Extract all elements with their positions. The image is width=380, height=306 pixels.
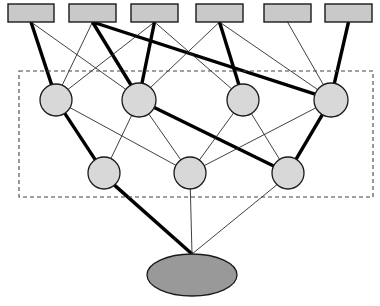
hidden-node-c4[interactable] [314,83,348,117]
connection-edge-d1-o1 [114,185,192,254]
input-node-r6[interactable] [325,4,372,22]
hidden-node-c1[interactable] [40,84,72,116]
hidden-node-d2[interactable] [174,157,206,189]
connection-edge-c2-d3 [154,107,273,165]
connection-edge-r6-c4 [334,22,348,83]
input-node-r4[interactable] [196,4,243,22]
connection-edge-c1-d1 [65,113,95,159]
connection-edge-d3-o1 [192,185,277,254]
connection-edge-c2-d1 [111,115,132,158]
hidden-node-d3[interactable] [272,157,304,189]
hidden-node-c2[interactable] [122,83,156,117]
connection-edge-c3-d3 [251,114,279,160]
connection-edge-r4-c3 [220,22,239,85]
connection-edge-r3-c3 [155,22,232,89]
hidden-node-d1[interactable] [88,157,120,189]
input-node-r3[interactable] [131,4,178,22]
network-diagram-svg [0,0,380,306]
connection-edge-r2-c1 [62,22,92,85]
input-node-r1[interactable] [8,4,54,22]
diagram-canvas [0,0,380,306]
edges-layer [31,22,349,254]
output-node-o1[interactable] [147,254,237,296]
connection-edge-r1-c1 [31,22,52,85]
connection-edge-r3-c2 [142,22,155,83]
hidden-node-c3[interactable] [227,84,259,116]
connection-edge-r2-c4 [93,22,316,94]
connection-edge-c1-d2 [70,108,176,166]
connection-edge-r4-c2 [151,22,220,88]
input-node-r2[interactable] [69,4,116,22]
connection-edge-c4-d3 [296,115,322,160]
input-node-r5[interactable] [264,4,311,22]
connection-edge-r5-c4 [288,22,324,85]
connection-edge-d2-o1 [190,189,192,254]
